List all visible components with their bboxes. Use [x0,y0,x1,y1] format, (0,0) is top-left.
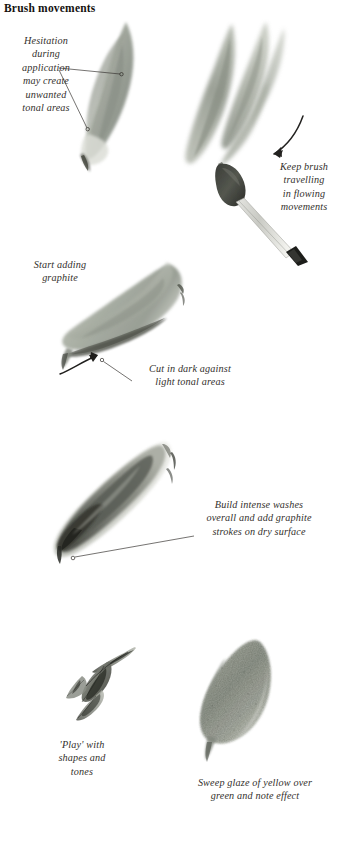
caption-build-intense-washes: Build intense washes overall and add gra… [176,498,342,538]
caption-hesitation: Hesitation during application may create… [6,34,86,114]
illustration-page: Brush movements [0,0,352,856]
arrow-keep-brush [248,112,306,166]
caption-start-adding-graphite: Start adding graphite [14,258,106,285]
caption-cut-in-dark: Cut in dark against light tonal areas [128,362,252,389]
caption-sweep-glaze: Sweep glaze of yellow over green and not… [166,776,344,803]
leaf-cluster-sketch [58,640,158,730]
leaf-textured-glaze [182,638,302,768]
caption-keep-brush: Keep brush travelling in flowing movemen… [258,160,350,214]
caption-play-with-shapes: 'Play' with shapes and tones [42,738,122,778]
page-title: Brush movements [4,2,96,14]
